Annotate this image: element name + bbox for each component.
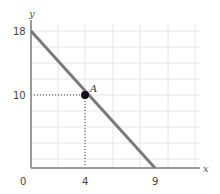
y-tick-18: 18 (13, 26, 26, 37)
y-tick-10: 10 (13, 90, 26, 101)
chart-canvas: A y x 18 10 0 4 9 (0, 0, 220, 194)
x-tick-4: 4 (82, 176, 88, 187)
y-axis-label: y (28, 8, 35, 19)
x-axis-label: x (203, 163, 209, 174)
point-a-marker (81, 91, 89, 99)
x-tick-9: 9 (152, 176, 158, 187)
grid (31, 24, 200, 168)
data-line (31, 31, 155, 168)
point-a-label: A (89, 83, 97, 94)
origin-label: 0 (20, 176, 26, 187)
